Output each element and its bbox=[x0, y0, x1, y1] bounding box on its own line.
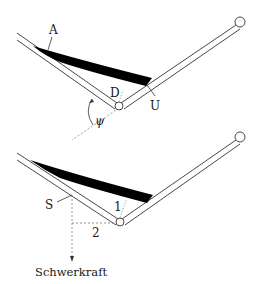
pivot-circle bbox=[115, 102, 123, 110]
figure-bottom: S 1 2 Schwerkraft bbox=[17, 132, 245, 279]
s-leader bbox=[57, 195, 72, 202]
right-arm-bottom bbox=[122, 140, 240, 225]
end-knob-bottom bbox=[235, 132, 245, 142]
label-a: A bbox=[48, 23, 58, 37]
label-psi: ψ bbox=[95, 114, 105, 128]
a-leader bbox=[48, 37, 52, 50]
diagram-canvas: A D U ψ S 1 2 Schwerkraft bbox=[0, 0, 261, 284]
label-1: 1 bbox=[114, 200, 122, 214]
arrow-down-icon bbox=[70, 256, 74, 262]
angle-arc bbox=[88, 99, 93, 125]
right-arm bbox=[121, 25, 240, 109]
label-u: U bbox=[150, 99, 160, 113]
label-s: S bbox=[45, 198, 53, 212]
lever-diagram: A D U ψ S 1 2 Schwerkraft bbox=[0, 0, 261, 284]
wedge-shape-bottom bbox=[30, 160, 153, 203]
end-knob bbox=[235, 17, 245, 27]
u-leader bbox=[147, 85, 155, 96]
pivot-circle-bottom bbox=[116, 218, 124, 226]
label-d: D bbox=[110, 86, 120, 100]
label-gravity: Schwerkraft bbox=[35, 265, 107, 279]
figure-top: A D U ψ bbox=[17, 17, 245, 140]
label-2: 2 bbox=[92, 226, 100, 240]
wedge-shape bbox=[33, 46, 152, 86]
